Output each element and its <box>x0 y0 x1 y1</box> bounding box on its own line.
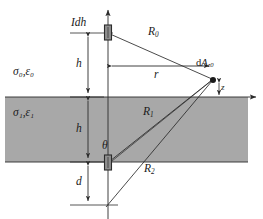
label-height-upper: h <box>76 58 82 70</box>
label-field-point-subscript: z0 <box>208 61 214 68</box>
label-ray-r1-subscript: 1 <box>150 111 154 119</box>
label-ray-r1: R1 <box>143 106 154 119</box>
lower-medium-slab <box>5 97 248 162</box>
label-angle-theta: θ <box>102 140 108 152</box>
label-upper-medium: σ₀,ε₀ <box>13 66 34 78</box>
label-ray-r0-subscript: 0 <box>155 31 159 39</box>
diagram-canvas: Idh σ₀,ε₀ σ₁,ε₁ h h d r z R0 R1 R2 θ dAz… <box>0 0 263 219</box>
label-source-element: Idh <box>71 17 86 29</box>
label-height-lower: h <box>76 123 82 135</box>
label-ray-r0: R0 <box>148 26 159 39</box>
diagram-vector-layer <box>0 0 263 219</box>
label-ray-r2-subscript: 2 <box>151 168 155 176</box>
label-ray-r2: R2 <box>144 163 155 176</box>
label-vertical-offset: z <box>221 83 225 92</box>
label-radial-distance: r <box>154 69 158 81</box>
label-field-point: dAz0 <box>196 58 214 69</box>
label-lower-medium: σ₁,ε₁ <box>13 107 34 119</box>
label-depth: d <box>76 176 82 188</box>
field-point-dot <box>210 77 216 83</box>
